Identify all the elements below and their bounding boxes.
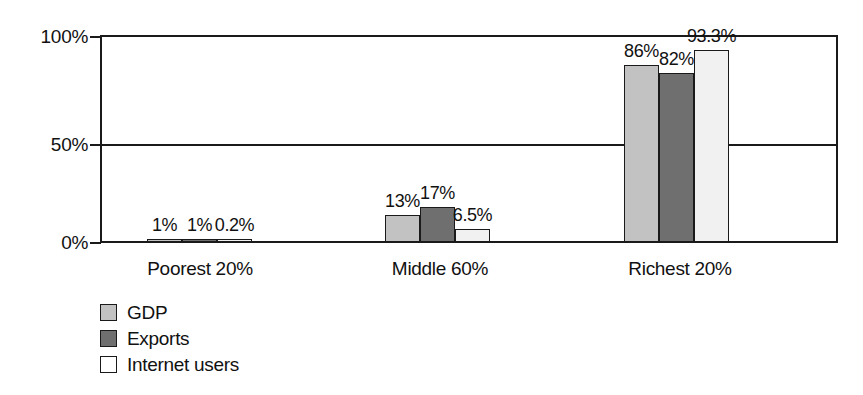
legend-item-gdp: GDP bbox=[100, 299, 239, 325]
bar-internet-users-1 bbox=[455, 229, 490, 242]
legend-label-gdp: GDP bbox=[127, 303, 167, 322]
bar-value-internet-users-0: 0.2% bbox=[204, 216, 265, 234]
legend-item-exports: Exports bbox=[100, 325, 239, 351]
legend-label-exports: Exports bbox=[127, 329, 189, 348]
legend-label-internet-users: Internet users bbox=[127, 355, 239, 374]
bar-exports-2 bbox=[659, 73, 694, 242]
bar-gdp-2 bbox=[624, 65, 659, 242]
x-axis-category-middle: Middle 60% bbox=[330, 258, 550, 279]
bar-gdp-0 bbox=[147, 239, 182, 242]
chart-legend: GDP Exports Internet users bbox=[100, 299, 239, 377]
bar-internet-users-2 bbox=[694, 50, 729, 242]
bar-value-internet-users-2: 93.3% bbox=[681, 27, 742, 45]
bar-value-internet-users-1: 6.5% bbox=[442, 206, 503, 224]
legend-swatch-exports bbox=[100, 330, 117, 347]
bar-internet-users-0 bbox=[217, 239, 252, 242]
bar-value-exports-1: 17% bbox=[407, 184, 468, 202]
legend-item-internet-users: Internet users bbox=[100, 351, 239, 377]
legend-swatch-gdp bbox=[100, 304, 117, 321]
legend-swatch-internet-users bbox=[100, 356, 117, 373]
bar-exports-0 bbox=[182, 239, 217, 242]
bar-gdp-1 bbox=[385, 215, 420, 242]
x-axis-category-poorest: Poorest 20% bbox=[90, 258, 310, 279]
bar-chart: 100% 50% 0% 1%1%0.2%13%17%6.5%86%82%93.3… bbox=[0, 0, 863, 395]
x-axis-category-richest: Richest 20% bbox=[570, 258, 790, 279]
